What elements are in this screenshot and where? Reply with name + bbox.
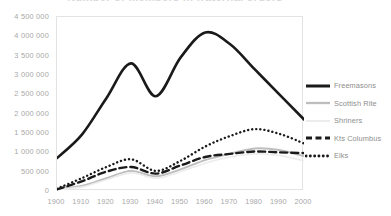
x-axis-tick-label: 1940 xyxy=(146,197,163,206)
y-axis-labels: 4 500 0004 000 0003 500 0003 000 0002 50… xyxy=(0,0,52,216)
legend-label: Shriners xyxy=(334,116,362,125)
legend-swatch-icon xyxy=(305,116,331,126)
legend-item-elks[interactable]: Elks xyxy=(305,147,391,165)
y-axis-tick-label: 2 000 000 xyxy=(14,108,49,117)
y-axis-tick-label: 500 000 xyxy=(21,166,49,175)
x-axis-tick-label: 1970 xyxy=(220,197,237,206)
chart-title: Number of members in fraternal orders xyxy=(40,0,310,3)
plot-lines xyxy=(57,17,304,191)
y-axis-tick-label: 4 000 000 xyxy=(14,31,49,40)
plot-area xyxy=(56,16,303,190)
y-axis-tick-label: 4 500 000 xyxy=(14,12,49,21)
legend-swatch-icon xyxy=(305,151,331,161)
chart-container: Number of members in fraternal orders 4 … xyxy=(0,0,391,216)
legend-swatch-icon xyxy=(305,133,331,143)
series-line-elks xyxy=(57,129,304,189)
chart-legend: FreemasonsScottish RiteShrinersKts Colum… xyxy=(305,77,391,165)
y-axis-tick-label: 3 500 000 xyxy=(14,50,49,59)
x-axis-tick-label: 2000 xyxy=(295,197,312,206)
x-axis-tick-label: 1950 xyxy=(171,197,188,206)
y-axis-tick-label: 2 500 000 xyxy=(14,89,49,98)
x-axis-tick-label: 1930 xyxy=(122,197,139,206)
y-axis-tick-label: 0 xyxy=(45,186,49,195)
legend-label: Elks xyxy=(334,151,348,160)
y-axis-tick-label: 1 000 000 xyxy=(14,147,49,156)
legend-swatch-icon xyxy=(305,98,331,108)
x-axis-tick-label: 1980 xyxy=(245,197,262,206)
legend-item-scottish-rite[interactable]: Scottish Rite xyxy=(305,95,391,113)
x-axis-tick-label: 1900 xyxy=(48,197,65,206)
legend-item-shriners[interactable]: Shriners xyxy=(305,112,391,130)
x-axis-tick-label: 1960 xyxy=(196,197,213,206)
legend-item-freemasons[interactable]: Freemasons xyxy=(305,77,391,95)
x-axis-labels: 1900191019201930194019501960197019801990… xyxy=(0,197,391,211)
legend-swatch-icon xyxy=(305,81,331,91)
x-axis-tick-label: 1910 xyxy=(72,197,89,206)
legend-label: Kts Columbus xyxy=(334,134,381,143)
legend-item-kts-columbus[interactable]: Kts Columbus xyxy=(305,130,391,148)
x-axis-tick-label: 1920 xyxy=(97,197,114,206)
y-axis-tick-label: 1 500 000 xyxy=(14,128,49,137)
legend-label: Freemasons xyxy=(334,81,376,90)
y-axis-tick-label: 3 000 000 xyxy=(14,70,49,79)
x-axis-tick-label: 1990 xyxy=(270,197,287,206)
series-line-freemasons xyxy=(57,32,304,158)
legend-label: Scottish Rite xyxy=(334,99,377,108)
